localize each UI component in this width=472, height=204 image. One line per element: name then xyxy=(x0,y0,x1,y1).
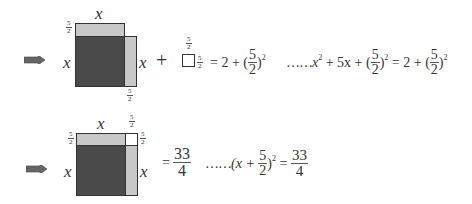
small-square-rect xyxy=(182,54,195,67)
label-right-x: x xyxy=(140,162,148,182)
label-top-right-frac: 52 xyxy=(129,114,135,129)
label-top-frac: 52 xyxy=(66,20,72,35)
equation-row2-left: = 334 xyxy=(162,146,191,179)
x-square-rect xyxy=(75,36,125,87)
equation-row1-right: …… x2 + 5x + ( 52 )2 = 2 + ( 52 )2 xyxy=(286,48,447,77)
double-arrow-right-icon xyxy=(26,165,48,173)
label-right-x: x xyxy=(139,53,147,73)
equation-row2-right: …… (x + 52 )2 = 334 xyxy=(205,148,308,179)
x-square-rect xyxy=(76,145,126,196)
equation-row1-left: = 2 + ( 52 )2 xyxy=(210,48,266,77)
small-square-right-frac: 52 xyxy=(197,55,203,70)
label-bottom-frac: 52 xyxy=(127,88,133,103)
label-left-x: x xyxy=(64,162,72,182)
label-left-x: x xyxy=(63,53,71,73)
label-top-left-frac: 52 xyxy=(68,131,74,146)
plus-sign: + xyxy=(156,49,167,72)
label-top-x: x xyxy=(97,114,105,134)
double-arrow-right-icon xyxy=(24,56,46,64)
label-right-top-frac: 52 xyxy=(140,131,146,146)
right-strip-rect xyxy=(124,36,137,87)
label-top-x: x xyxy=(95,4,103,24)
top-strip-rect xyxy=(75,23,125,37)
right-strip-rect xyxy=(125,145,138,196)
small-square-top-frac: 52 xyxy=(186,36,192,51)
